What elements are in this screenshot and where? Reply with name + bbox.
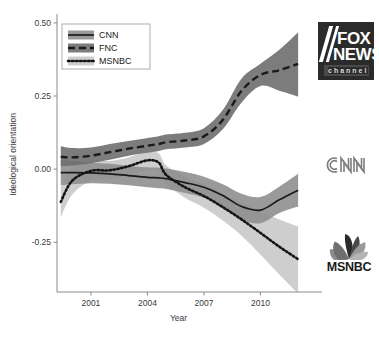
y-tick-label: 0.00 [34,164,51,174]
nbc-peacock-icon [320,230,378,260]
cnn-logo [322,152,374,178]
x-tick-label: 2004 [138,298,157,308]
chart-figure: 0.500.250.00-0.252001200420072010YearIde… [0,0,379,340]
fox-logo-line-3: channel [328,67,368,74]
y-axis-title: Ideological orientation [8,113,18,196]
legend-label-fnc: FNC [99,43,118,53]
legend-label-msnbc: MSNBC [99,56,132,66]
x-tick-label: 2001 [81,298,100,308]
x-tick-label: 2007 [194,298,213,308]
y-tick-label: -0.25 [32,237,52,247]
msnbc-logo: MSNBC [320,230,378,280]
x-axis-title: Year [170,313,187,323]
legend-label-cnn: CNN [99,30,119,40]
x-tick-label: 2010 [251,298,270,308]
chart-legend: CNNFNCMSNBC [62,24,150,69]
fox-news-logo: FOX NEWS channel [318,22,374,80]
y-tick-label: 0.50 [34,18,51,28]
fox-logo-line-2: NEWS [333,46,374,63]
msnbc-wordmark: MSNBC [320,260,378,274]
y-tick-label: 0.25 [34,91,51,101]
